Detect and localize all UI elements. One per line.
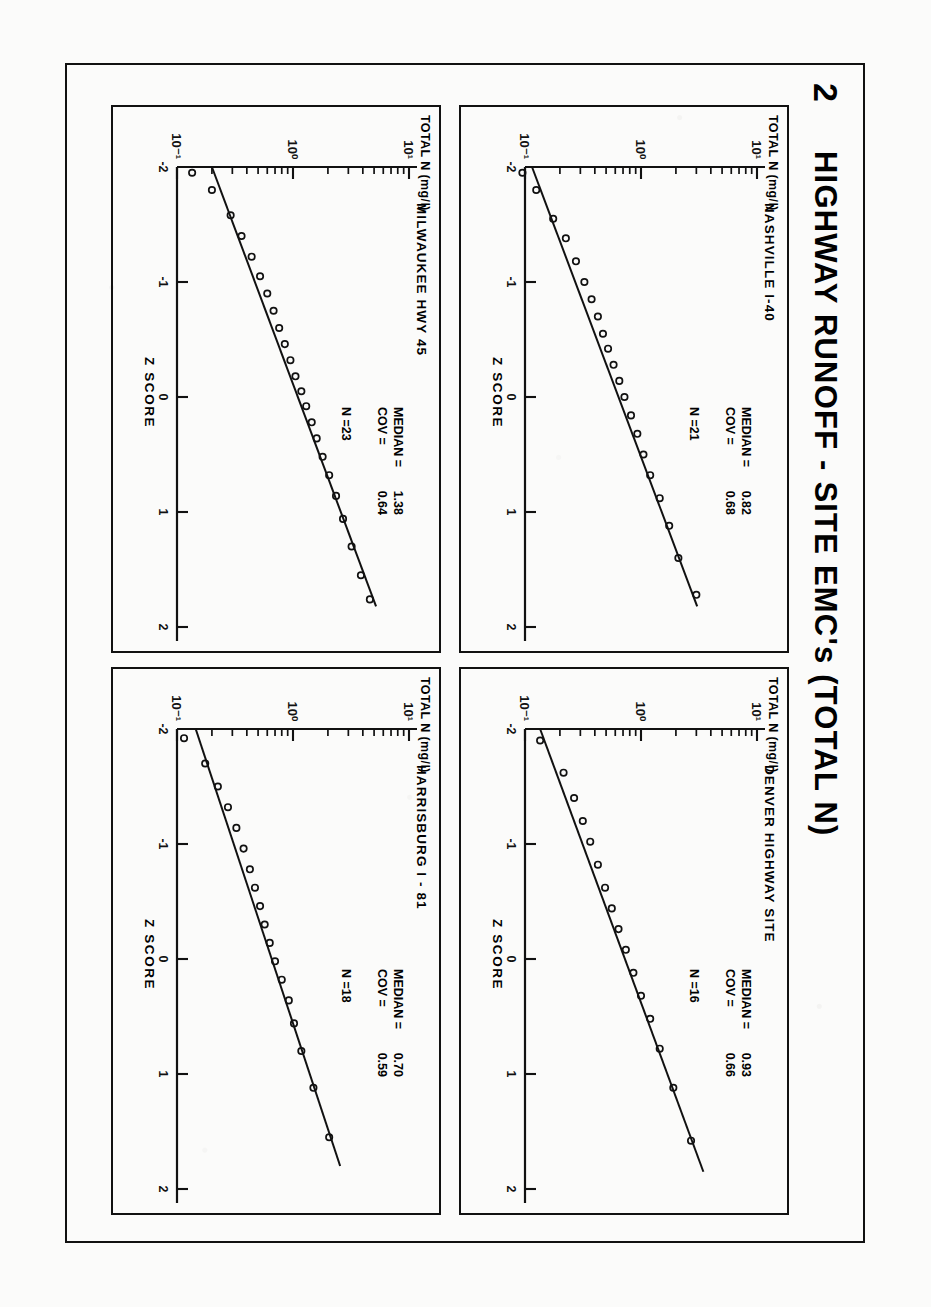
plot-canvas-denver: 10¹10⁰10⁻¹-2-1012: [461, 669, 787, 1213]
data-point: [693, 592, 699, 598]
x-tick-label: 2: [156, 624, 170, 631]
y-axis-title: TOTAL N: [766, 115, 780, 171]
y-axis-title: TOTAL N: [766, 677, 780, 733]
data-point: [240, 845, 246, 851]
data-point: [264, 290, 270, 296]
stat-n-harrisburg: N =18: [339, 969, 353, 1003]
x-tick-label: -1: [156, 838, 170, 849]
stat-n-value: 23: [339, 427, 353, 441]
data-point: [257, 273, 263, 279]
stat-median-label: MEDIAN =: [737, 407, 753, 479]
stat-median-label: MEDIAN =: [389, 407, 405, 479]
stat-cov-row: COV = 0.68: [722, 407, 738, 515]
data-point: [588, 296, 594, 302]
stats-milwaukee: MEDIAN = 1.38 COV = 0.64: [374, 407, 405, 515]
data-point: [537, 737, 543, 743]
stat-cov-label: COV =: [722, 407, 738, 479]
data-point: [287, 357, 293, 363]
stat-n-label: N =: [687, 407, 701, 427]
fit-line: [196, 729, 340, 1166]
plot-area-denver: 10¹10⁰10⁻¹-2-1012: [504, 695, 765, 1203]
data-point: [286, 997, 292, 1003]
x-tick-label: -2: [156, 161, 170, 172]
stat-cov-label: COV =: [722, 969, 738, 1041]
data-point: [623, 947, 629, 953]
data-point: [267, 940, 273, 946]
stat-cov-value: 0.59: [374, 1041, 390, 1077]
stat-median-row: MEDIAN = 0.93: [737, 969, 753, 1077]
stat-n-label: N =: [687, 969, 701, 989]
data-point: [628, 412, 634, 418]
stat-median-value: 1.38: [389, 479, 405, 515]
x-tick-label: -2: [156, 723, 170, 734]
data-point: [209, 187, 215, 193]
data-point: [580, 818, 586, 824]
stat-n-value: 18: [339, 989, 353, 1003]
stat-median-row: MEDIAN = 0.82: [737, 407, 753, 515]
stat-cov-label: COV =: [374, 407, 390, 479]
site-label-harrisburg: HARRISBURG I - 81: [414, 765, 429, 910]
stat-median-row: MEDIAN = 0.70: [389, 969, 405, 1077]
data-point: [630, 970, 636, 976]
fit-line: [212, 167, 376, 606]
stat-cov-row: COV = 0.66: [722, 969, 738, 1077]
y-tick-label: 10⁰: [285, 702, 300, 722]
plot-area-harrisburg: 10¹10⁰10⁻¹-2-1012: [156, 695, 417, 1203]
panel-milwaukee: TOTAL N (mg/l) MILWAUKEE HWY 45 MEDIAN =…: [111, 105, 441, 653]
stat-n-nashville: N =21: [687, 407, 701, 441]
x-tick-label: 0: [156, 394, 170, 401]
y-tick-label: 10¹: [749, 140, 764, 159]
data-point: [233, 825, 239, 831]
data-point: [605, 346, 611, 352]
data-point: [634, 431, 640, 437]
x-tick-label: 1: [504, 509, 518, 516]
y-tick-label: 10⁻¹: [517, 133, 532, 159]
data-point: [270, 308, 276, 314]
data-point: [615, 926, 621, 932]
y-tick-label: 10⁰: [285, 140, 300, 160]
data-point: [621, 394, 627, 400]
x-axis-label-milwaukee: Z SCORE: [142, 357, 157, 428]
stat-median-value: 0.70: [389, 1041, 405, 1077]
data-point: [609, 905, 615, 911]
y-axis-title: TOTAL N: [418, 677, 432, 733]
site-label-milwaukee: MILWAUKEE HWY 45: [414, 203, 429, 356]
x-tick-label: 2: [504, 624, 518, 631]
x-tick-label: 1: [504, 1071, 518, 1078]
panel-denver: TOTAL N (mg/l) DENVER HIGHWAY SITE MEDIA…: [459, 667, 789, 1215]
y-tick-label: 10¹: [749, 702, 764, 721]
stat-n-label: N =: [339, 969, 353, 989]
data-point: [581, 279, 587, 285]
stat-n-value: 16: [687, 989, 701, 1003]
stat-cov-value: 0.64: [374, 479, 390, 515]
stat-n-denver: N =16: [687, 969, 701, 1003]
data-point: [303, 403, 309, 409]
y-tick-label: 10¹: [401, 140, 416, 159]
stats-harrisburg: MEDIAN = 0.70 COV = 0.59: [374, 969, 405, 1077]
y-axis-title: TOTAL N: [418, 115, 432, 171]
y-axis-label-harrisburg: TOTAL N (mg/l): [418, 677, 431, 773]
data-point: [563, 235, 569, 241]
data-point: [595, 313, 601, 319]
data-point: [181, 735, 187, 741]
data-point: [292, 373, 298, 379]
data-point: [276, 325, 282, 331]
site-label-denver: DENVER HIGHWAY SITE: [762, 765, 777, 943]
data-point: [616, 378, 622, 384]
data-point: [189, 170, 195, 176]
x-tick-label: 0: [156, 956, 170, 963]
y-tick-label: 10⁰: [633, 702, 648, 722]
y-tick-label: 10⁻¹: [517, 695, 532, 721]
stat-n-label: N =: [339, 407, 353, 427]
data-point: [587, 839, 593, 845]
stat-cov-row: COV = 0.64: [374, 407, 390, 515]
plot-canvas-milwaukee: 10¹10⁰10⁻¹-2-1012: [113, 107, 439, 651]
stat-cov-label: COV =: [374, 969, 390, 1041]
figure-title: HIGHWAY RUNOFF - SITE EMC's (TOTAL N): [807, 151, 843, 837]
x-tick-label: 0: [504, 956, 518, 963]
x-tick-label: -1: [504, 276, 518, 287]
y-axis-label-denver: TOTAL N (mg/l): [766, 677, 779, 773]
x-tick-label: 1: [156, 509, 170, 516]
x-tick-label: -1: [504, 838, 518, 849]
data-point: [313, 435, 319, 441]
